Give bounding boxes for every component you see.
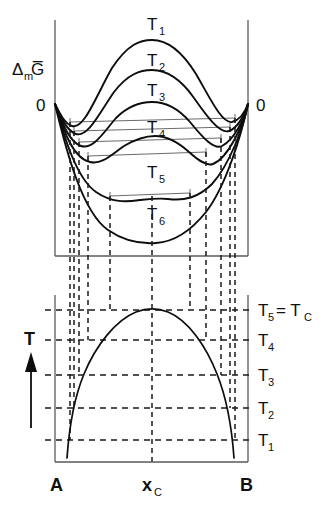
gibbs-curve-labels: T 1 T 2 T 3 T 4 T 5 T 6 — [147, 15, 165, 227]
temp-label-T3-sub: 3 — [268, 376, 274, 388]
curve-label-T5: T — [147, 163, 157, 182]
curve-label-T4: T — [147, 118, 157, 137]
delta-symbol: Δ — [12, 60, 23, 79]
temp-label-T2-sub: 2 — [268, 409, 274, 421]
temp-label-Tc-sub: C — [304, 311, 312, 323]
x-label-B: B — [240, 475, 253, 495]
curve-label-T5-sub: 5 — [159, 173, 165, 185]
x-label-xc-sub: C — [154, 486, 162, 498]
zero-label-right: 0 — [256, 96, 265, 115]
binodal-dome-curve — [67, 309, 234, 458]
zero-label-left: 0 — [36, 96, 45, 115]
curve-label-T2: T — [147, 51, 157, 70]
gibbs-symbol: G̅ — [31, 60, 44, 79]
curve-label-T2-sub: 2 — [159, 61, 165, 73]
curve-label-T6-sub: 6 — [159, 215, 165, 227]
temp-label-T1-sub: 1 — [268, 441, 274, 453]
temp-label-T5-sub: 5 — [268, 311, 274, 323]
temp-label-T3: T — [258, 366, 268, 385]
x-label-A: A — [50, 475, 63, 495]
temp-label-T2: T — [258, 399, 268, 418]
temperature-axis-arrow — [25, 352, 37, 428]
x-label-xc: x — [142, 475, 152, 495]
temperature-axis-label: T — [24, 329, 35, 349]
phase-diagram-figure: T 1 T 2 T 3 T 4 T 5 T 6 Δ m G̅ 0 0 — [0, 0, 325, 505]
temp-label-T5-equals-Tc: = T — [276, 301, 301, 320]
temperature-tick-labels: T 5 = T C T 4 T 3 T 2 T 1 — [258, 301, 312, 453]
temp-label-T4-sub: 4 — [268, 341, 274, 353]
curve-label-T3-sub: 3 — [159, 91, 165, 103]
curve-label-T3: T — [147, 81, 157, 100]
curve-label-T4-sub: 4 — [159, 128, 165, 140]
gibbs-y-axis-label: Δ m G̅ — [12, 60, 44, 82]
curve-label-T1: T — [147, 15, 157, 34]
temp-label-T4: T — [258, 331, 268, 350]
curve-label-T1-sub: 1 — [159, 25, 165, 37]
temp-label-T5: T — [258, 301, 268, 320]
figure-root: T 1 T 2 T 3 T 4 T 5 T 6 Δ m G̅ 0 0 — [0, 0, 325, 505]
composition-axis-labels: A x C B — [50, 475, 253, 498]
temp-label-T1: T — [258, 431, 268, 450]
